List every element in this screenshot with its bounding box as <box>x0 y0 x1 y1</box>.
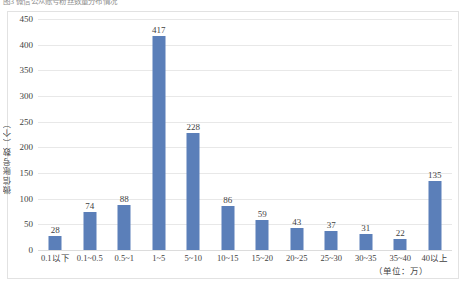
bar[interactable] <box>428 181 441 250</box>
x-axis-tick-label: 20~25 <box>286 252 308 264</box>
bar-value-label: 28 <box>51 225 60 235</box>
bar-value-label: 86 <box>223 195 232 205</box>
y-axis-tick-label: 150 <box>0 169 33 178</box>
bar-slot[interactable]: 135 <box>418 19 453 250</box>
x-axis-tick-label: 10~15 <box>217 252 239 264</box>
y-axis-tick-label: 250 <box>0 117 33 126</box>
bar-value-label: 135 <box>428 170 442 180</box>
bar[interactable] <box>325 231 338 250</box>
bar-slot[interactable]: 28 <box>38 19 73 250</box>
bar-slot[interactable]: 31 <box>349 19 384 250</box>
bar[interactable] <box>49 236 62 250</box>
bar[interactable] <box>394 239 407 250</box>
y-axis-tick-label: 450 <box>0 15 33 24</box>
x-axis-tick-label: 0.1~0.5 <box>77 252 103 264</box>
bar[interactable] <box>290 228 303 250</box>
bar[interactable] <box>221 206 234 250</box>
bar-slot[interactable]: 59 <box>245 19 280 250</box>
x-axis-unit-note: （单位：万） <box>374 265 428 277</box>
bar-value-label: 43 <box>292 217 301 227</box>
bar-value-label: 228 <box>187 122 201 132</box>
bar[interactable] <box>359 234 372 250</box>
bar[interactable] <box>152 36 165 250</box>
x-axis-tick-label: 0.1以下 <box>41 252 70 264</box>
bar-value-label: 22 <box>396 228 405 238</box>
bar-slot[interactable]: 228 <box>176 19 211 250</box>
bar-value-label: 59 <box>258 209 267 219</box>
bar[interactable] <box>118 205 131 250</box>
bar-value-label: 31 <box>361 223 370 233</box>
figure-caption-text: 图3 微信公众账号粉丝数量分布情况 <box>3 0 117 6</box>
bar[interactable] <box>187 133 200 250</box>
x-axis-ticks: 0.1以下0.1~0.50.5~11~55~1010~1515~2020~252… <box>38 252 452 266</box>
bar-value-label: 88 <box>120 194 129 204</box>
x-axis-tick-label: 25~30 <box>320 252 342 264</box>
x-axis-tick-label: 0.5~1 <box>115 252 134 264</box>
bar-value-label: 417 <box>152 25 166 35</box>
x-axis-tick-label: 40以上 <box>422 252 449 264</box>
x-axis-tick-label: 30~35 <box>355 252 377 264</box>
y-axis-tick-label: 0 <box>0 246 33 255</box>
bar[interactable] <box>256 220 269 250</box>
x-axis-tick-label: 5~10 <box>185 252 202 264</box>
figure-caption-strip: 图3 微信公众账号粉丝数量分布情况 <box>0 0 467 9</box>
bar-value-label: 74 <box>85 201 94 211</box>
bar-slot[interactable]: 86 <box>211 19 246 250</box>
y-axis-tick-label: 400 <box>0 40 33 49</box>
x-axis-tick-label: 15~20 <box>251 252 273 264</box>
bar[interactable] <box>83 212 96 250</box>
y-axis-tick-label: 200 <box>0 143 33 152</box>
bar-slot[interactable]: 74 <box>73 19 108 250</box>
bar-slot[interactable]: 22 <box>383 19 418 250</box>
bar-slot[interactable]: 43 <box>280 19 315 250</box>
bar-value-label: 37 <box>327 220 336 230</box>
y-axis-tick-label: 100 <box>0 194 33 203</box>
y-axis-tick-label: 300 <box>0 92 33 101</box>
y-axis-tick-label: 50 <box>0 220 33 229</box>
x-axis-tick-label: 35~40 <box>389 252 411 264</box>
bar-slot[interactable]: 37 <box>314 19 349 250</box>
bars-layer: 287488417228865943373122135 <box>38 19 452 250</box>
x-axis-tick-label: 1~5 <box>152 252 165 264</box>
bar-slot[interactable]: 417 <box>142 19 177 250</box>
bar-slot[interactable]: 88 <box>107 19 142 250</box>
plot-area: 050100150200250300350400450 287488417228… <box>38 19 452 250</box>
gridline <box>38 250 452 251</box>
y-axis-tick-label: 350 <box>0 66 33 75</box>
